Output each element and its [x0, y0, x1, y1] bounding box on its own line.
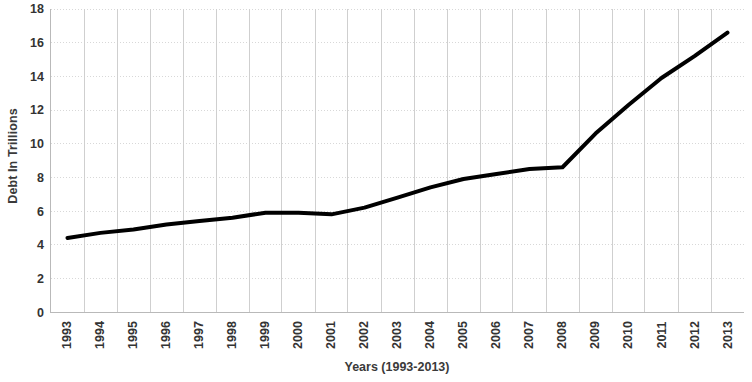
x-axis-tick-label: 2006: [489, 321, 503, 349]
x-axis-tick-label: 1996: [159, 321, 173, 349]
y-axis-tick-18: 18: [22, 3, 44, 16]
y-axis-tick-12: 12: [22, 104, 44, 117]
x-axis-tick-label: 2010: [621, 321, 635, 349]
y-axis-tick-14: 14: [22, 70, 44, 83]
x-axis-tick-2013: 2013: [704, 314, 750, 360]
x-axis-tick-labels: 1993199419951996199719981999200020012002…: [50, 314, 744, 360]
y-axis-tick-16: 16: [22, 37, 44, 50]
x-axis-tick-label: 2004: [423, 321, 437, 349]
x-axis-tick-label: 2000: [291, 321, 305, 349]
x-axis-tick-label: 2005: [456, 321, 470, 349]
x-axis-tick-label: 2013: [720, 321, 734, 349]
x-axis-tick-label: 2009: [588, 321, 602, 349]
x-axis-tick-label: 1994: [93, 321, 107, 349]
x-axis-tick-label: 1998: [225, 321, 239, 349]
x-axis-tick-label: 2012: [687, 321, 701, 349]
data-series-line: [51, 9, 744, 312]
y-axis-tick-6: 6: [22, 205, 44, 218]
x-axis-tick-label: 2003: [390, 321, 404, 349]
x-axis-tick-label: 2001: [324, 321, 338, 349]
x-axis-tick-label: 1997: [192, 321, 206, 349]
y-axis-tick-8: 8: [22, 172, 44, 185]
x-axis-tick-label: 2011: [654, 321, 668, 348]
x-axis-tick-label: 2002: [357, 321, 371, 349]
x-axis-tick-label: 2008: [555, 321, 569, 349]
x-axis-title: Years (1993-2013): [50, 360, 744, 374]
x-axis-tick-label: 2007: [522, 321, 536, 349]
y-axis-tick-0: 0: [22, 307, 44, 320]
y-axis-tick-10: 10: [22, 138, 44, 151]
plot-area: [50, 9, 744, 313]
x-axis-tick-label: 1993: [60, 321, 74, 349]
x-axis-tick-label: 1999: [258, 321, 272, 349]
y-axis-tick-2: 2: [22, 273, 44, 286]
y-axis-title-label: Debt In Trillions: [6, 108, 20, 203]
x-axis-tick-label: 1995: [126, 321, 140, 349]
y-axis-tick-4: 4: [22, 239, 44, 252]
y-axis-tick-labels: 024681012141618: [22, 0, 44, 322]
debt-line-chart: Debt In Trillions 024681012141618 199319…: [0, 0, 752, 382]
